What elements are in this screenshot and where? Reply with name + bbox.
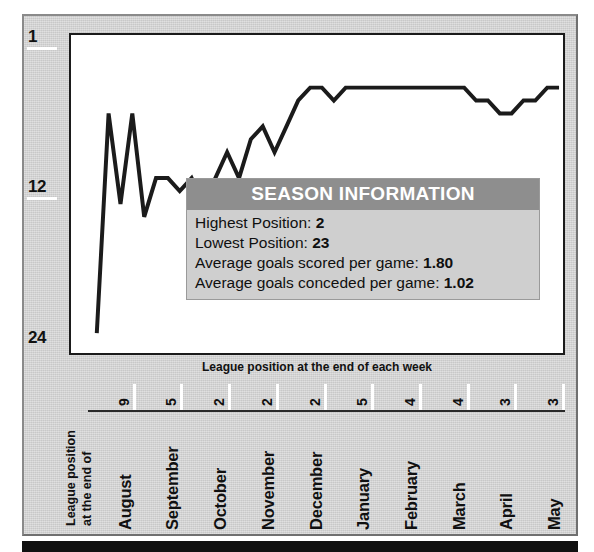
x-axis-week-december: 2 <box>307 398 323 406</box>
info-row-highest-position: Highest Position: 2 <box>195 213 531 233</box>
y-axis-title: League position at the end of <box>64 430 95 526</box>
x-axis-tick-august <box>133 384 136 410</box>
y-axis-label-24: 24 <box>28 329 46 346</box>
bottom-black-bar <box>22 541 578 552</box>
x-axis-week-may: 3 <box>545 398 561 406</box>
x-axis-week-september: 5 <box>163 398 179 406</box>
x-axis-week-october: 2 <box>211 398 227 406</box>
season-information-body: Highest Position: 2 Lowest Position: 23 … <box>187 210 539 299</box>
info-value-highest-position: 2 <box>316 214 325 231</box>
x-axis-month-february: February <box>402 461 421 530</box>
x-axis-month-march: March <box>450 482 469 530</box>
info-row-lowest-position: Lowest Position: 23 <box>195 233 531 253</box>
x-axis-tick-october <box>228 384 231 410</box>
chart-caption: League position at the end of each week <box>69 360 565 374</box>
x-axis-tick-november <box>276 384 279 410</box>
season-information-title: SEASON INFORMATION <box>187 179 539 210</box>
info-row-avg-goals-scored: Average goals scored per game: 1.80 <box>195 253 531 273</box>
y-axis-title-line2: at the end of <box>80 430 96 526</box>
x-axis-week-february: 4 <box>402 398 418 406</box>
y-axis-title-line1: League position <box>64 430 80 526</box>
x-axis-month-october: October <box>211 468 230 530</box>
x-axis-month-november: November <box>259 451 278 530</box>
y-axis-tick-1 <box>27 47 57 50</box>
x-axis-month-january: January <box>354 468 373 530</box>
x-axis-week-march: 4 <box>450 398 466 406</box>
y-axis-tick-12 <box>27 197 57 200</box>
x-axis-line <box>88 410 565 412</box>
x-axis-month-december: December <box>307 452 326 530</box>
info-value-avg-goals-conceded: 1.02 <box>444 274 474 291</box>
x-axis-week-april: 3 <box>497 398 513 406</box>
y-axis-label-12: 12 <box>28 178 46 195</box>
info-label-avg-goals-scored: Average goals scored per game: <box>195 254 419 271</box>
x-axis-tick-september <box>180 384 183 410</box>
season-information-panel: SEASON INFORMATION Highest Position: 2 L… <box>186 178 540 300</box>
x-axis-tick-january <box>371 384 374 410</box>
x-axis-month-april: April <box>497 493 516 530</box>
x-axis-tick-march <box>467 384 470 410</box>
x-axis-month-september: September <box>163 447 182 530</box>
chart-page: 1 12 24 SEASON INFORMATION Highest Posit… <box>0 0 594 552</box>
x-axis-tick-april <box>514 384 517 410</box>
info-label-lowest-position: Lowest Position: <box>195 234 308 251</box>
y-axis-label-1: 1 <box>28 28 37 45</box>
info-label-highest-position: Highest Position: <box>195 214 311 231</box>
x-axis-week-august: 9 <box>116 398 132 406</box>
x-axis-month-august: August <box>116 474 135 530</box>
x-axis-month-may: May <box>545 499 564 531</box>
info-value-lowest-position: 23 <box>312 234 329 251</box>
x-axis-tick-december <box>324 384 327 410</box>
info-row-avg-goals-conceded: Average goals conceded per game: 1.02 <box>195 273 531 293</box>
info-value-avg-goals-scored: 1.80 <box>423 254 453 271</box>
x-axis-week-november: 2 <box>259 398 275 406</box>
x-axis-tick-may <box>562 384 565 410</box>
x-axis-week-january: 5 <box>354 398 370 406</box>
info-label-avg-goals-conceded: Average goals conceded per game: <box>195 274 439 291</box>
x-axis-tick-february <box>419 384 422 410</box>
